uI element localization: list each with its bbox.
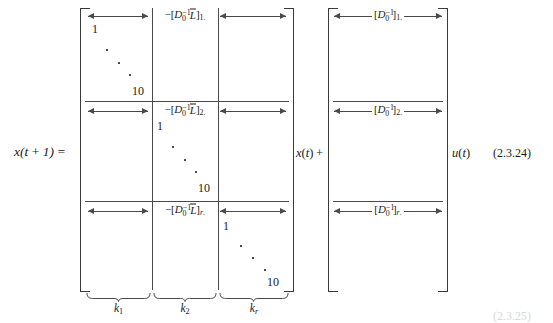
matrix-a-diagonal-block-2: 1 10 — [152, 101, 218, 201]
matrix-a-cell-r2c2: −[D−10L]2. 1 10 — [152, 101, 218, 201]
diagonal-dot — [264, 269, 266, 271]
matrix-a-diagonal-start-3: 1 — [223, 219, 229, 234]
matrix-b-grid: [D−10]1. [D−10]2. [D−10]r. — [333, 8, 443, 290]
column-brace-label-k2: k2 — [153, 303, 217, 317]
matrix-a-span-arrow-r1c3 — [220, 10, 286, 22]
matrix-a-diagonal-start-2: 1 — [157, 119, 163, 134]
column-brace-kr — [219, 293, 289, 302]
matrix-a-cell-r1c2: −[D−10L]1. — [152, 8, 218, 101]
matrix-b-cell-r2: [D−10]2. — [333, 101, 443, 201]
matrix-a-block-label-3: −[D−10L]r. — [163, 204, 207, 217]
arrow-left-head — [220, 111, 253, 112]
matrix-b-block-label-1: [D−10]1. — [372, 9, 404, 22]
arrow-right-head — [404, 16, 442, 17]
matrix-b-block-label-row-3: [D−10]r. — [334, 205, 442, 217]
matrix-b-block-label-row-1: [D−10]1. — [334, 10, 442, 22]
matrix-a-cell-r2c3 — [218, 101, 289, 201]
matrix-a-diagonal-block-1: 1 10 — [85, 8, 152, 101]
matrix-a-block-label-1: −[D−10L]1. — [162, 9, 207, 22]
matrix-b-block-label-2: [D−10]2. — [372, 104, 404, 117]
matrix-a-diagonal-end-2: 10 — [198, 181, 210, 196]
state-vector-and-plus: x(t) + — [296, 147, 323, 160]
diagonal-dot — [195, 171, 197, 173]
matrix-a-span-arrow-r2c3 — [220, 105, 286, 117]
matrix-b-cell-r1: [D−10]1. — [333, 8, 443, 101]
arrow-right-head — [118, 111, 148, 112]
arrow-right-head — [404, 211, 442, 212]
diagonal-dot — [106, 49, 108, 51]
arrow-left-head — [334, 211, 372, 212]
matrix-a-diagonal-end-3: 10 — [267, 275, 279, 290]
arrow-right-head — [118, 211, 148, 212]
matrix-b-block-label-3: [D−10]r. — [372, 204, 403, 217]
arrow-left-head — [334, 16, 372, 17]
matrix-a-diagonal-end-1: 10 — [132, 84, 144, 99]
diagonal-dot — [172, 146, 174, 148]
state-transition-matrix: 1 10 −[D−10L]1. — [80, 8, 294, 290]
matrix-a-span-arrow-r2c1 — [88, 105, 148, 117]
equation-number: (2.3.24) — [493, 147, 531, 159]
matrix-a-cell-r3c1 — [85, 201, 152, 290]
matrix-a-grid: 1 10 −[D−10L]1. — [85, 8, 289, 290]
arrow-left-head — [220, 16, 253, 17]
arrow-right-head — [253, 16, 286, 17]
arrow-right-head — [404, 111, 442, 112]
column-brace-k1 — [86, 293, 151, 302]
equation-number-next-clipped: (2.3.25) — [493, 310, 531, 322]
diagonal-dot — [129, 74, 131, 76]
matrix-b-block-label-row-2: [D−10]2. — [334, 105, 442, 117]
matrix-a-diagonal-block-3: 1 10 — [218, 201, 289, 290]
arrow-left-head — [88, 211, 118, 212]
matrix-a-cell-r3c3: 1 10 — [218, 201, 289, 290]
arrow-left-head — [88, 111, 118, 112]
matrix-a-block-label-row-1: −[D−10L]1. — [152, 10, 218, 22]
matrix-a-block-label-row-3: −[D−10L]r. — [152, 205, 218, 217]
equation-left-hand-side: x(t + 1) = — [14, 145, 66, 159]
diagonal-dot — [118, 62, 120, 64]
matrix-b-cell-r3: [D−10]r. — [333, 201, 443, 290]
diagonal-dot — [240, 245, 242, 247]
diagonal-dot — [252, 257, 254, 259]
matrix-a-cell-r2c1 — [85, 101, 152, 201]
column-brace-k2 — [153, 293, 217, 302]
matrix-a-cell-r1c3 — [218, 8, 289, 101]
arrow-left-head — [334, 111, 372, 112]
column-brace-label-kr: kr — [219, 303, 289, 317]
matrix-a-cell-r1c1: 1 10 — [85, 8, 152, 101]
matrix-a-diagonal-start-1: 1 — [92, 22, 98, 37]
arrow-right-head — [253, 111, 286, 112]
matrix-a-cell-r3c2: −[D−10L]r. — [152, 201, 218, 290]
input-matrix: [D−10]1. [D−10]2. [D−10]r. — [328, 8, 448, 290]
diagonal-dot — [184, 159, 186, 161]
matrix-a-span-arrow-r3c1 — [88, 205, 148, 217]
input-vector: u(t) — [452, 147, 470, 160]
column-brace-label-k1: k1 — [86, 303, 151, 317]
